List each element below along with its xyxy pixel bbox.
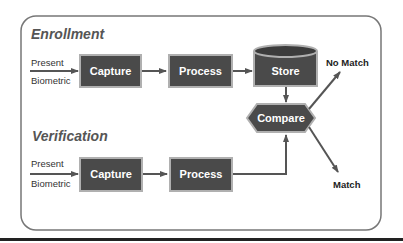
verification-capture-label: Capture: [90, 168, 132, 180]
verification-input-biometric: Biometric: [31, 178, 71, 189]
verification-capture-box: Capture: [80, 158, 142, 191]
compare-label: Compare: [257, 112, 305, 124]
verification-process-box: Process: [170, 158, 232, 191]
arrow-verification-process-compare: [233, 135, 286, 174]
enrollment-process-box: Process: [169, 55, 232, 87]
compare-decision-hexagon: Compare: [247, 104, 315, 132]
enrollment-title: Enrollment: [31, 26, 105, 42]
match-label: Match: [333, 179, 361, 190]
store-database-cylinder: Store: [254, 45, 317, 86]
enrollment-input-biometric: Biometric: [31, 75, 71, 86]
bottom-rule: [0, 238, 403, 241]
verification-input-present: Present: [31, 158, 64, 169]
verification-title: Verification: [32, 128, 108, 144]
enrollment-input-present: Present: [31, 57, 64, 68]
verification-process-label: Process: [180, 168, 223, 180]
arrow-match: [309, 127, 338, 172]
biometric-flow-diagram: Enrollment Present Biometric Capture Pro…: [0, 0, 403, 243]
no-match-label: No Match: [326, 57, 369, 68]
store-label: Store: [271, 65, 299, 77]
enrollment-process-label: Process: [179, 65, 222, 77]
enrollment-capture-box: Capture: [80, 55, 141, 87]
enrollment-capture-label: Capture: [90, 65, 132, 77]
diagram-frame: [21, 16, 381, 230]
